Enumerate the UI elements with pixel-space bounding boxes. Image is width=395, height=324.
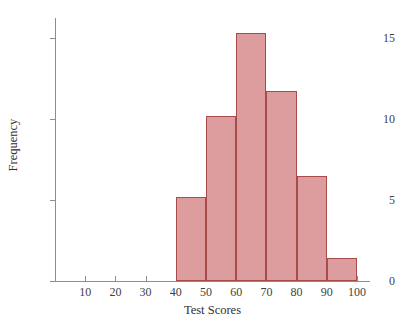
x-tick-label: 60 [219,285,253,299]
y-tick-mark [50,200,56,201]
histogram-bar [236,33,266,281]
y-tick-label: 15 [351,32,395,44]
histogram-bar [297,176,327,281]
x-tick-label: 70 [249,285,283,299]
histogram-bar [266,91,296,281]
histogram-bar [327,258,357,281]
histogram-figure: 051015 102030405060708090100 Test Scores… [0,0,395,324]
x-tick-mark [357,276,358,281]
x-tick-label: 90 [310,285,344,299]
y-tick-mark [50,281,56,282]
y-tick-mark [50,38,56,39]
x-tick-mark [85,276,86,281]
plot-area: 051015 102030405060708090100 Test Scores… [0,0,395,324]
y-axis-line [55,18,56,282]
histogram-bar [206,116,236,281]
x-tick-label: 30 [129,285,163,299]
y-tick-label: 5 [351,194,395,206]
histogram-bar [176,197,206,281]
x-tick-label: 50 [189,285,223,299]
x-tick-label: 100 [340,285,374,299]
x-tick-mark [115,276,116,281]
x-tick-label: 20 [98,285,132,299]
x-tick-label: 80 [280,285,314,299]
y-axis-title: Frequency [6,100,20,190]
y-tick-mark [50,119,56,120]
x-axis-line [55,281,370,282]
x-tick-label: 40 [159,285,193,299]
x-tick-mark [146,276,147,281]
x-tick-label: 10 [68,285,102,299]
x-axis-title: Test Scores [55,303,370,317]
y-tick-label: 10 [351,113,395,125]
